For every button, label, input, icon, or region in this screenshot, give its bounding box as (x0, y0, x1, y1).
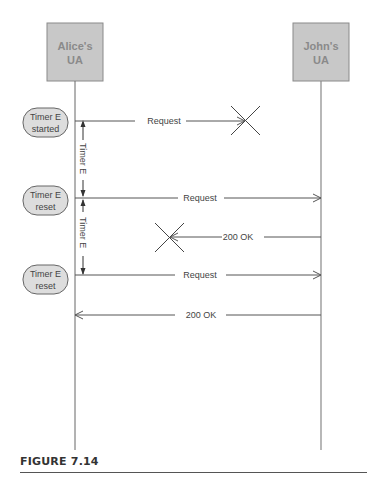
timer-note-2-line-2: reset (35, 202, 56, 212)
participant-john-label-1: John's (303, 40, 338, 52)
message-request-lost: Request (75, 106, 260, 135)
timer-note-3-line-2: reset (35, 281, 56, 291)
sequence-diagram: Alice's UA John's UA Timer E started Tim… (0, 0, 367, 486)
message-5-label: 200 OK (186, 310, 217, 320)
caption-rule (20, 472, 367, 473)
participant-john: John's UA (293, 23, 349, 81)
participant-john-label-2: UA (313, 54, 329, 66)
participant-alice-label-1: Alice's (57, 40, 92, 52)
timer-note-1-line-2: started (32, 124, 60, 134)
message-2-label: Request (183, 193, 217, 203)
timer-note-3-line-1: Timer E (30, 269, 61, 279)
timer-note-reset-2: Timer E reset (23, 265, 68, 294)
message-4-label: Request (183, 270, 217, 280)
timer-note-reset-1: Timer E reset (23, 186, 68, 215)
message-200ok: 200 OK (75, 310, 321, 320)
message-200ok-lost: 200 OK (155, 223, 321, 252)
timer-e-interval-1: Timer E (78, 120, 88, 197)
participant-alice: Alice's UA (47, 23, 103, 81)
timer-e-interval-2: Timer E (78, 199, 88, 275)
message-request-3: Request (75, 270, 321, 280)
participant-alice-label-2: UA (67, 54, 83, 66)
message-3-label: 200 OK (223, 232, 254, 242)
message-request-2: Request (75, 193, 321, 203)
timer-note-2-line-1: Timer E (30, 190, 61, 200)
timer-note-started: Timer E started (23, 108, 68, 137)
message-1-label: Request (147, 116, 181, 126)
timer-e-label-1: Timer E (78, 143, 88, 174)
timer-e-label-2: Timer E (78, 217, 88, 248)
figure-caption: FIGURE 7.14 (20, 455, 99, 468)
timer-note-1-line-1: Timer E (30, 112, 61, 122)
